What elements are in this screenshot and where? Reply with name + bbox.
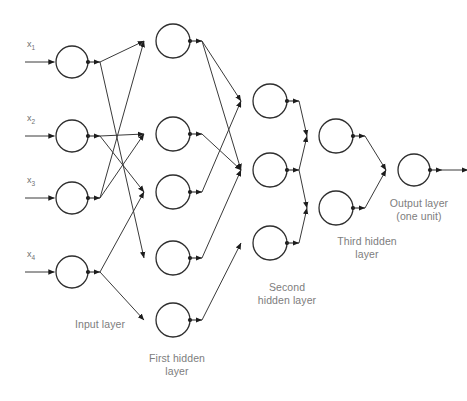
node-circle-i2[interactable] — [56, 120, 88, 152]
layer-label-output: Output layer (one unit) — [379, 197, 459, 223]
node-h1c[interactable] — [156, 175, 202, 209]
edge-i1-to-h1d — [100, 62, 144, 258]
edge-h1d-to-h2b — [202, 170, 241, 258]
edge-i3-to-h1a — [100, 41, 144, 198]
node-h2c[interactable] — [253, 226, 299, 260]
node-circle-h1a[interactable] — [156, 24, 190, 58]
edges-group — [25, 41, 467, 320]
layer-label-first-hidden: First hidden layer — [137, 352, 217, 378]
node-circle-o1[interactable] — [398, 154, 430, 186]
node-h1a[interactable] — [156, 24, 202, 58]
edge-h1e-to-h2c — [202, 243, 241, 320]
edge-h2b-to-h3a — [299, 136, 307, 170]
node-circle-h1b[interactable] — [156, 117, 190, 151]
node-circle-h2a[interactable] — [253, 84, 287, 118]
layer-label-second-hidden: Second hidden layer — [248, 281, 326, 307]
node-circle-i3[interactable] — [56, 182, 88, 214]
node-h2a[interactable] — [253, 84, 299, 118]
node-i1[interactable] — [56, 46, 100, 78]
node-circle-h3a[interactable] — [319, 119, 353, 153]
node-circle-h3b[interactable] — [319, 191, 353, 225]
edge-h1c-to-h2a — [202, 101, 241, 192]
node-circle-i1[interactable] — [56, 46, 88, 78]
input-label-x1: x1 — [27, 40, 35, 51]
edge-h2b-to-h3b — [299, 170, 307, 208]
node-circle-h1c[interactable] — [156, 175, 190, 209]
input-label-x2: x2 — [27, 114, 35, 125]
node-i2[interactable] — [56, 120, 100, 152]
layer-label-third-hidden: Third hidden layer — [325, 235, 409, 261]
layer-label-input: Input layer — [60, 318, 140, 331]
node-h3b[interactable] — [319, 191, 365, 225]
node-i4[interactable] — [56, 256, 100, 288]
node-circle-h1e[interactable] — [156, 303, 190, 337]
edge-i4-to-h1c — [100, 192, 144, 272]
node-h3a[interactable] — [319, 119, 365, 153]
edge-h2c-to-h3b — [299, 208, 307, 243]
input-label-x4: x4 — [27, 250, 35, 261]
node-h1e[interactable] — [156, 303, 202, 337]
edge-i4-to-h1e — [100, 272, 144, 320]
neural-network-diagram: x1 x2 x3 x4 Input layer First hidden lay… — [0, 0, 467, 401]
node-i3[interactable] — [56, 182, 100, 214]
node-circle-h2b[interactable] — [253, 153, 287, 187]
edge-h1a-to-h2b — [202, 41, 241, 170]
node-circle-i4[interactable] — [56, 256, 88, 288]
node-circle-h2c[interactable] — [253, 226, 287, 260]
edge-i2-to-h1b — [100, 134, 144, 136]
edge-i1-to-h1a — [100, 41, 144, 62]
edge-h3a-to-o1 — [365, 136, 386, 170]
input-label-x3: x3 — [27, 176, 35, 187]
node-h1d[interactable] — [156, 241, 202, 275]
node-h1b[interactable] — [156, 117, 202, 151]
edge-h2a-to-h3a — [299, 101, 307, 136]
node-h2b[interactable] — [253, 153, 299, 187]
node-circle-h1d[interactable] — [156, 241, 190, 275]
edge-h1a-to-h2a — [202, 41, 241, 101]
node-o1[interactable] — [398, 154, 442, 186]
